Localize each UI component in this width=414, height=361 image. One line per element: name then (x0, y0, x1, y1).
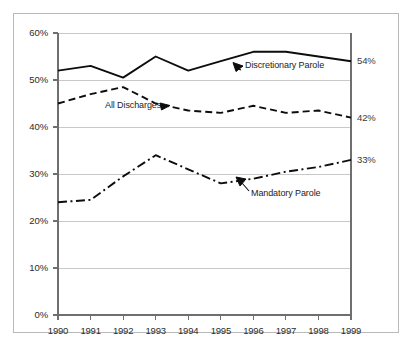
x-tick-label-1998: 1998 (300, 325, 336, 336)
x-tick-label-1992: 1992 (105, 325, 141, 336)
arrow-mandatory-parole (236, 177, 246, 186)
end-label-discretionary-parole: 54% (357, 55, 376, 66)
x-tick-label-1994: 1994 (170, 325, 206, 336)
x-tick-label-1999: 1999 (333, 325, 369, 336)
x-tick-label-1991: 1991 (73, 325, 109, 336)
y-tick-label-50: 50% (14, 74, 48, 85)
x-tick-label-1997: 1997 (268, 325, 304, 336)
y-tick-label-40: 40% (14, 121, 48, 132)
end-label-mandatory-parole: 33% (357, 154, 376, 165)
y-tick-label-10: 10% (14, 262, 48, 273)
x-tick-marks (58, 315, 351, 320)
x-tick-label-1990: 1990 (40, 325, 76, 336)
y-tick-label-0: 0% (14, 309, 48, 320)
series-label-all-discharges: All Discharges (105, 100, 161, 110)
line-chart-plot (0, 0, 414, 361)
series-line-all-discharges (58, 87, 351, 118)
series-label-mandatory-parole: Mandatory Parole (251, 188, 320, 198)
x-tick-label-1996: 1996 (235, 325, 271, 336)
end-label-all-discharges: 42% (357, 112, 376, 123)
y-tick-label-20: 20% (14, 215, 48, 226)
y-tick-marks (53, 33, 58, 315)
series-label-discretionary-parole: Discretionary Parole (245, 60, 324, 70)
y-tick-label-30: 30% (14, 168, 48, 179)
x-tick-label-1995: 1995 (203, 325, 239, 336)
arrow-all-discharges (160, 103, 170, 110)
chart-figure: 60% 50% 40% 30% 20% 10% 0% 1990 1991 199… (0, 0, 414, 361)
x-tick-label-1993: 1993 (138, 325, 174, 336)
y-tick-label-60: 60% (14, 27, 48, 38)
arrow-discretionary-parole (233, 63, 243, 72)
